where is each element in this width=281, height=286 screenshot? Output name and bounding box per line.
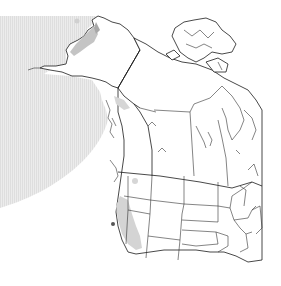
map-canvas [0,0,281,286]
range-map [0,0,281,286]
arctic-islands [172,18,236,62]
